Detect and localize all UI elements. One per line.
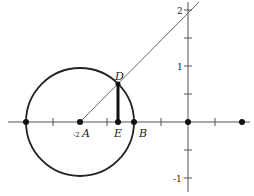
point-B bbox=[131, 119, 137, 125]
diagram-canvas: -2 A E B D 2 1 -1 bbox=[0, 0, 254, 196]
label-D: D bbox=[114, 70, 124, 83]
y-tick-2: 2 bbox=[177, 6, 183, 16]
label-B: B bbox=[138, 127, 147, 140]
y-tick-neg1: -1 bbox=[173, 174, 182, 184]
point-A bbox=[77, 119, 83, 125]
point-left bbox=[23, 119, 29, 125]
x-label-A-value: -2 bbox=[73, 131, 80, 139]
y-tick-1: 1 bbox=[177, 62, 183, 72]
label-A: A bbox=[81, 127, 90, 140]
diagram-svg: -2 A E B D 2 1 -1 bbox=[0, 0, 254, 196]
point-E bbox=[115, 119, 121, 125]
point-origin bbox=[185, 119, 191, 125]
label-E: E bbox=[113, 127, 122, 140]
point-right bbox=[239, 119, 245, 125]
